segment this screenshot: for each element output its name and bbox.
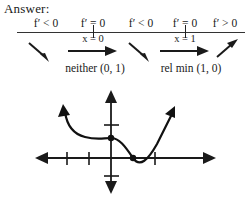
critical-label-x0: x = 0 <box>69 33 117 45</box>
sign-chart-line <box>17 32 245 33</box>
arrow-decreasing-2 <box>127 41 153 63</box>
sign-chart: f′ < 0 f′ = 0 f′ < 0 f′ = 0 f′ > 0 x = 0… <box>17 17 245 79</box>
arrow-flat-x0 <box>67 45 119 59</box>
curve <box>65 112 172 162</box>
y-axis <box>105 90 117 194</box>
arrow-flat-x1 <box>159 45 211 59</box>
sign-label-interval-3: f′ > 0 <box>203 17 247 30</box>
answer-heading: Answer: <box>4 1 49 16</box>
conclusion-rel-min: rel min (1, 0) <box>151 62 231 75</box>
graph-canvas <box>33 88 218 196</box>
arrow-decreasing-1 <box>27 41 53 63</box>
marked-point-inflection <box>108 135 114 141</box>
conclusion-neither: neither (0, 1) <box>55 62 135 75</box>
critical-label-x1: x = 1 <box>161 33 209 45</box>
x-axis <box>35 152 216 164</box>
function-graph <box>33 88 218 196</box>
marked-point-rel-min <box>130 155 136 161</box>
arrow-increasing <box>215 39 241 61</box>
curve-arrow-left <box>58 104 70 117</box>
answer-figure: Answer: f′ < 0 f′ = 0 f′ < 0 f′ = 0 f′ >… <box>0 0 251 200</box>
